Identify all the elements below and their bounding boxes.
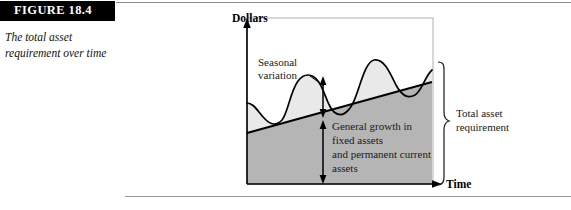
figure-caption-line-1: The total asset [5, 29, 155, 45]
seasonal-variation-label-line-2: variation [258, 69, 298, 81]
y-axis-label: Dollars [232, 12, 268, 24]
general-growth-label-line-2: fixed assets [332, 134, 383, 146]
x-axis-label: Time [446, 178, 471, 190]
figure-number-label: FIGURE 18.4 [14, 3, 92, 18]
seasonal-variation-label-line-1: Seasonal [258, 56, 297, 68]
figure-caption-line-2: requirement over time [5, 45, 155, 61]
figure-container: FIGURE 18.4 The total asset requirement … [0, 0, 571, 210]
total-asset-requirement-brace [438, 62, 449, 185]
total-asset-requirement-label-line-1: Total asset [456, 107, 503, 119]
general-growth-label-line-4: assets [332, 162, 358, 174]
asset-requirement-chart: Dollars Time Seasonal variation General … [230, 0, 571, 210]
total-asset-requirement-label-line-2: requirement [456, 121, 509, 133]
figure-caption: The total asset requirement over time [5, 29, 155, 61]
general-growth-label-line-1: General growth in [332, 120, 413, 132]
general-growth-label-line-3: and permanent current [332, 148, 431, 160]
